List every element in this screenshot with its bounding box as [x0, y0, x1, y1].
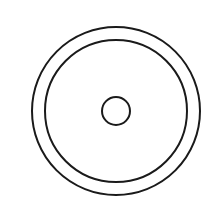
concentric-circles-diagram [0, 0, 217, 214]
inner-ring-circle [45, 40, 187, 182]
diagram-canvas [0, 0, 217, 214]
center-hole-circle [102, 97, 130, 125]
outer-ring-circle [32, 27, 200, 195]
